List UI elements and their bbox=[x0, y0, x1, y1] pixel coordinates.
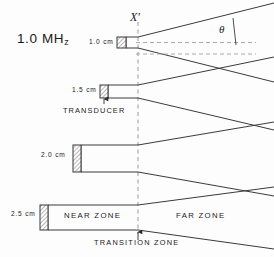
far-zone-lower-edge-1 bbox=[138, 48, 274, 82]
transducer-element-2.0cm bbox=[73, 145, 81, 172]
far-zone-upper-edge-1 bbox=[138, 3, 274, 37]
theta-tick bbox=[233, 18, 236, 45]
divergence-angle-label: θ bbox=[219, 23, 224, 35]
beam-group-1.0cm bbox=[117, 3, 274, 82]
diameter-label-4: 2.5 cm bbox=[11, 210, 36, 217]
transducer-element-2.5cm bbox=[40, 205, 48, 230]
transducer-label: TRANSDUCER bbox=[63, 106, 125, 115]
beam-group-2.0cm bbox=[73, 122, 274, 196]
frequency-subscript: z bbox=[64, 37, 69, 47]
transducer-element-1.0cm bbox=[117, 37, 126, 48]
far-zone-label: FAR ZONE bbox=[176, 211, 225, 220]
diameter-label-3: 2.0 cm bbox=[41, 151, 66, 158]
far-zone-upper-edge-2 bbox=[138, 57, 274, 85]
diameter-label-1: 1.0 cm bbox=[89, 38, 114, 45]
ultrasound-beam-diagram: 1.0 MHz X' θ 1.0 cm 1.5 cm 2.0 cm 2.5 cm… bbox=[0, 0, 274, 257]
beam-group-1.5cm bbox=[100, 57, 274, 130]
far-zone-upper-edge-4 bbox=[138, 187, 274, 205]
diameter-label-2: 1.5 cm bbox=[72, 86, 97, 93]
frequency-value: 1.0 MH bbox=[17, 31, 64, 46]
far-zone-upper-edge-3 bbox=[138, 122, 274, 145]
frequency-label: 1.0 MHz bbox=[17, 31, 69, 47]
axis-label-x-prime: X' bbox=[130, 10, 140, 25]
transducer-element-1.5cm bbox=[100, 85, 108, 98]
transition-zone-label: TRANSITION ZONE bbox=[94, 238, 179, 247]
far-zone-lower-edge-3 bbox=[138, 172, 274, 196]
near-zone-label: NEAR ZONE bbox=[64, 211, 121, 220]
